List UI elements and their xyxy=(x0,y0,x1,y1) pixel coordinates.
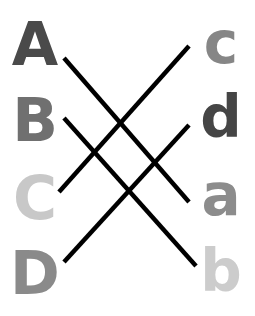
match-lines xyxy=(0,0,255,316)
line-D-d xyxy=(64,125,189,262)
line-A-a xyxy=(64,58,189,202)
line-C-c xyxy=(59,46,189,192)
